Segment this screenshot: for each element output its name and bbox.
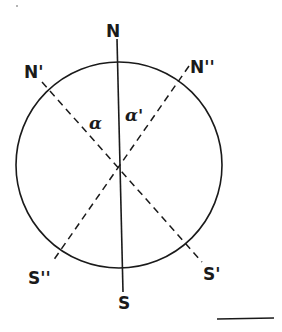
label-s-prime: S' — [203, 264, 220, 284]
label-s: S — [118, 293, 130, 313]
label-n-double-prime: N'' — [190, 57, 215, 77]
underline-mark — [217, 318, 274, 319]
angle-alpha-prime: α' — [125, 105, 143, 125]
label-n-prime: N' — [24, 62, 43, 82]
label-s-double-prime: S'' — [28, 268, 51, 288]
scan-speck — [16, 5, 18, 7]
declination-diagram: N S N' N'' S' S'' α α' — [0, 0, 282, 332]
label-n: N — [106, 21, 120, 41]
angle-alpha: α — [89, 113, 102, 133]
